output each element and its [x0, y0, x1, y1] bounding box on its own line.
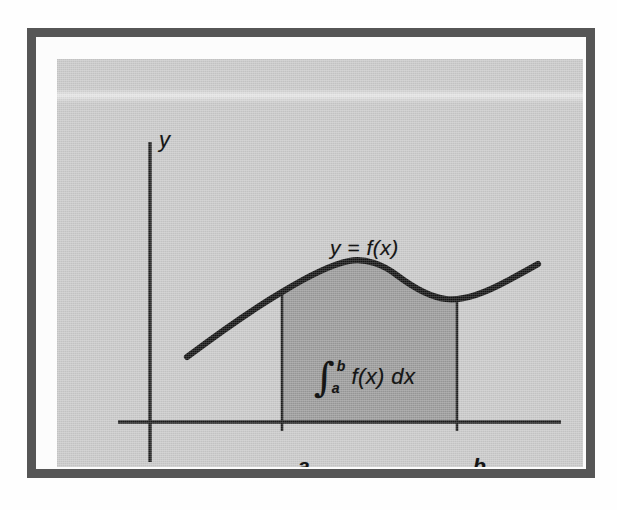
figure-root: y x y = f(x) a b ∫ b a f(x) dx [0, 0, 617, 510]
lower-bound-label: a [298, 455, 310, 467]
integral-expression: ∫ b a f(x) dx [314, 359, 415, 395]
shaded-area-under-curve [282, 260, 457, 422]
y-axis-label: y [159, 129, 170, 151]
figure-outer-frame: y x y = f(x) a b ∫ b a f(x) dx [27, 28, 595, 478]
integral-integrand: f(x) dx [351, 366, 415, 388]
integral-chart [57, 59, 583, 467]
plot-area: y x y = f(x) a b ∫ b a f(x) dx [57, 59, 583, 467]
integral-limits: b a [334, 359, 346, 395]
integral-sign-icon: ∫ [314, 362, 335, 393]
figure-inner-mat: y x y = f(x) a b ∫ b a f(x) dx [36, 37, 586, 469]
function-label: y = f(x) [330, 237, 399, 258]
integral-upper-limit: b [337, 359, 346, 373]
upper-bound-label: b [473, 455, 486, 467]
